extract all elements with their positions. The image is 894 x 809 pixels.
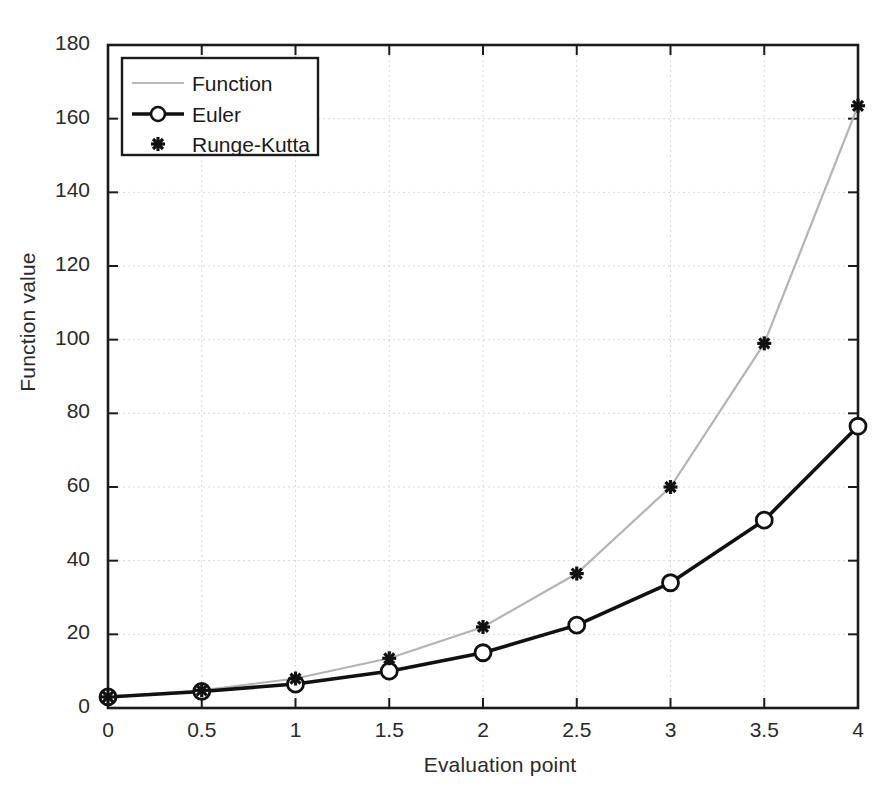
legend[interactable]: Function Euler Runge-Kutta xyxy=(122,58,318,156)
x-tick-0: 0 xyxy=(78,718,138,742)
x-tick-4: 4 xyxy=(828,718,888,742)
x-tick-1.5: 1.5 xyxy=(359,718,419,742)
y-tick-160: 160 xyxy=(32,105,90,129)
plot-area: Function Euler Runge-Kutta xyxy=(0,0,894,809)
y-tick-100: 100 xyxy=(32,326,90,350)
x-tick-2.5: 2.5 xyxy=(547,718,607,742)
y-tick-180: 180 xyxy=(32,31,90,55)
x-tick-3.5: 3.5 xyxy=(734,718,794,742)
y-tick-0: 0 xyxy=(32,694,90,718)
y-tick-40: 40 xyxy=(32,547,90,571)
x-tick-0.5: 0.5 xyxy=(172,718,232,742)
legend-label-runge-kutta: Runge-Kutta xyxy=(192,133,310,156)
x-tick-1: 1 xyxy=(266,718,326,742)
y-tick-140: 140 xyxy=(32,178,90,202)
x-axis-label: Evaluation point xyxy=(300,753,700,777)
y-axis-tick-labels: 020406080100120140160180 xyxy=(30,0,90,809)
y-tick-80: 80 xyxy=(32,399,90,423)
legend-label-function: Function xyxy=(192,72,273,95)
y-tick-120: 120 xyxy=(32,252,90,276)
legend-label-euler: Euler xyxy=(192,103,241,126)
y-tick-60: 60 xyxy=(32,473,90,497)
x-axis-tick-labels: 00.511.522.533.54 xyxy=(0,718,894,752)
y-tick-20: 20 xyxy=(32,620,90,644)
chart-figure: Function value Evaluation point 02040608… xyxy=(0,0,894,809)
x-tick-2: 2 xyxy=(453,718,513,742)
x-tick-3: 3 xyxy=(641,718,701,742)
